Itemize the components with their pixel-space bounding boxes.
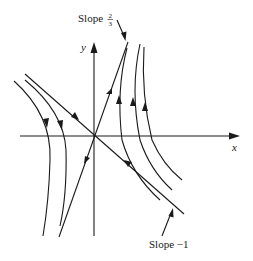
x-axis-label: x [231, 141, 237, 153]
flow-arrow-icon [57, 120, 63, 130]
slope-bottom-label: Slope −1 [149, 238, 189, 250]
slope-bottom-annotation: Slope −1 [149, 208, 189, 250]
slope-top-denominator: 3 [109, 20, 113, 28]
y-axis-arrowhead-icon [91, 42, 98, 53]
trajectories-right [116, 44, 182, 200]
flow-arrow-icon [106, 88, 112, 94]
flow-arrow-icon [116, 95, 122, 104]
flow-arrow-icon [84, 156, 90, 164]
phase-portrait-figure: x y Slope 2 3 [0, 0, 253, 261]
x-axis [20, 133, 240, 140]
slope-top-numerator: 2 [109, 12, 113, 20]
flow-arrow-icon [142, 102, 148, 111]
slope-top-label: Slope [78, 12, 103, 24]
slope-top-annotation: Slope 2 3 [78, 12, 127, 41]
x-axis-arrowhead-icon [229, 133, 240, 140]
y-axis-label: y [80, 41, 86, 53]
flow-arrow-icon [71, 112, 79, 120]
pointer-arrow-icon [121, 32, 127, 42]
pointer-arrow-icon [169, 208, 174, 218]
